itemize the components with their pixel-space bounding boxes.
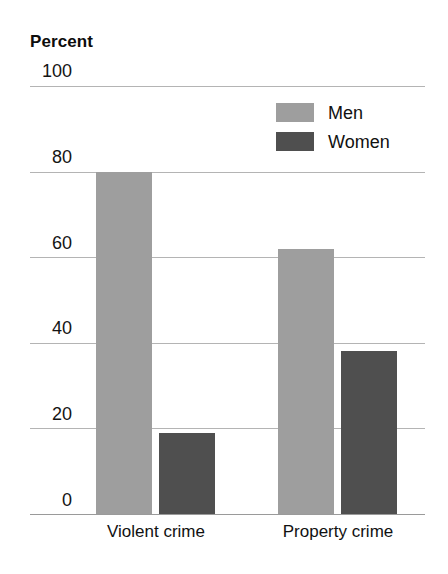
legend-item-women: Women xyxy=(276,128,390,155)
bar-chart: Percent 100 80 60 40 20 0 Violent crime … xyxy=(0,0,448,574)
legend-swatch-women-icon xyxy=(276,132,314,151)
y-tick-label-80: 80 xyxy=(18,148,72,166)
legend-label-women: Women xyxy=(328,133,390,151)
y-tick-label-0: 0 xyxy=(18,491,72,509)
legend: Men Women xyxy=(276,99,390,157)
legend-item-men: Men xyxy=(276,99,390,126)
y-tick-label-60: 60 xyxy=(18,234,72,252)
legend-label-men: Men xyxy=(328,104,363,122)
axis-baseline xyxy=(30,514,425,515)
y-axis-title: Percent xyxy=(30,32,93,52)
y-tick-label-100: 100 xyxy=(18,62,72,80)
x-category-label-property-crime: Property crime xyxy=(238,522,438,542)
x-category-label-violent-crime: Violent crime xyxy=(56,522,256,542)
y-tick-label-20: 20 xyxy=(18,405,72,423)
legend-swatch-men-icon xyxy=(276,103,314,122)
bar-women-property-crime xyxy=(341,351,397,514)
bar-women-violent-crime xyxy=(159,433,215,514)
y-tick-label-40: 40 xyxy=(18,319,72,337)
bar-men-property-crime xyxy=(278,249,334,514)
bar-men-violent-crime xyxy=(96,172,152,514)
